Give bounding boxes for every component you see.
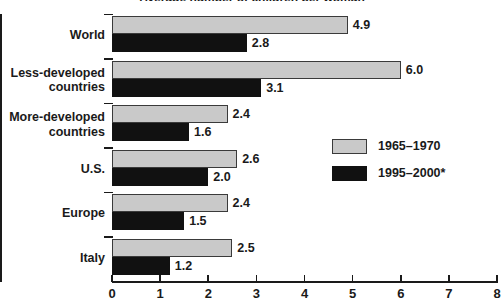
x-axis-tick-7	[448, 275, 450, 282]
bar-value-label-5-1: 1.2	[175, 260, 192, 273]
bar-value-label-4-1: 1.5	[189, 215, 206, 228]
chart-title: Average number of children per woman	[0, 0, 504, 1]
y-axis-tick	[104, 192, 113, 194]
legend-swatch-icon-1	[332, 166, 367, 181]
bar-value-label-2-1: 1.6	[194, 126, 211, 139]
x-axis-tick-0	[111, 275, 113, 282]
x-axis-tick-4	[304, 275, 306, 282]
legend-swatch-icon-0	[332, 139, 367, 154]
bar-value-label-3-1: 2.0	[213, 171, 230, 184]
x-axis-tick-label-1: 1	[145, 286, 175, 301]
bar-value-label-5-0: 2.5	[237, 242, 254, 255]
bar-0-0	[112, 16, 348, 34]
x-axis-tick-6	[400, 275, 402, 282]
bar-0-1	[112, 34, 247, 52]
category-label-2: More-developed countries	[0, 110, 105, 139]
y-axis-tick	[104, 103, 113, 105]
bar-5-1	[112, 257, 170, 275]
bar-2-1	[112, 123, 189, 141]
bar-value-label-0-1: 2.8	[252, 37, 269, 50]
bar-4-0	[112, 194, 228, 212]
category-label-3: U.S.	[0, 162, 105, 177]
x-axis-tick-label-3: 3	[241, 286, 271, 301]
x-axis-tick-label-6: 6	[386, 286, 416, 301]
bar-value-label-1-1: 3.1	[266, 82, 283, 95]
bar-value-label-4-0: 2.4	[233, 197, 250, 210]
y-axis-tick	[104, 236, 113, 238]
category-label-0: World	[0, 28, 105, 43]
bar-3-0	[112, 150, 237, 168]
bar-4-1	[112, 212, 184, 230]
y-axis-tick	[104, 147, 113, 149]
bar-chart: Average number of children per woman Wor…	[0, 0, 504, 308]
legend-label-1: 1995–2000*	[378, 166, 445, 181]
x-axis-tick-label-5: 5	[338, 286, 368, 301]
category-label-4: Europe	[0, 206, 105, 221]
bar-2-0	[112, 105, 228, 123]
x-axis-tick-8	[496, 275, 498, 282]
x-axis-tick-label-8: 8	[482, 286, 504, 301]
bar-value-label-0-0: 4.9	[353, 19, 370, 32]
category-label-5: Italy	[0, 251, 105, 266]
category-label-1: Less-developed countries	[0, 66, 105, 95]
bar-1-1	[112, 79, 261, 97]
bar-3-1	[112, 168, 208, 186]
x-axis-tick-label-2: 2	[193, 286, 223, 301]
x-axis-tick-label-7: 7	[434, 286, 464, 301]
bar-1-0	[112, 61, 401, 79]
y-axis-line	[0, 14, 2, 282]
x-axis-tick-1	[159, 275, 161, 282]
legend-label-0: 1965–1970	[378, 139, 441, 154]
y-axis-tick	[104, 58, 113, 60]
x-axis-tick-label-0: 0	[97, 286, 127, 301]
bar-5-0	[112, 239, 232, 257]
y-axis-tick	[104, 14, 113, 16]
x-axis-tick-3	[256, 275, 258, 282]
x-axis-tick-2	[207, 275, 209, 282]
x-axis-tick-label-4: 4	[290, 286, 320, 301]
bar-value-label-2-0: 2.4	[233, 108, 250, 121]
bar-value-label-3-0: 2.6	[242, 153, 259, 166]
bar-value-label-1-0: 6.0	[406, 64, 423, 77]
x-axis-tick-5	[352, 275, 354, 282]
